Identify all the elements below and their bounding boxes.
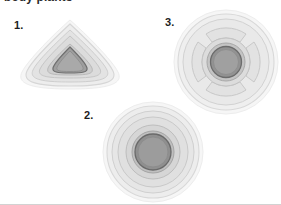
panel-1-teardrop-diagram <box>8 16 132 92</box>
panel-1-number-label: 1. <box>14 19 24 31</box>
bottom-rule-divider <box>0 204 281 205</box>
panel-2-number-label: 2. <box>84 109 94 121</box>
panel-3-svg <box>172 8 281 116</box>
panel-3-lobed-circular-diagram <box>172 8 281 116</box>
panel-2-core-highlight <box>138 137 168 167</box>
panel-3-core-highlight <box>214 50 239 75</box>
panel-3-number-label: 3. <box>165 16 175 28</box>
figure-canvas: body plants 1. <box>0 0 281 205</box>
clipped-heading: body plants <box>4 0 72 4</box>
panel-1-svg <box>8 16 132 92</box>
